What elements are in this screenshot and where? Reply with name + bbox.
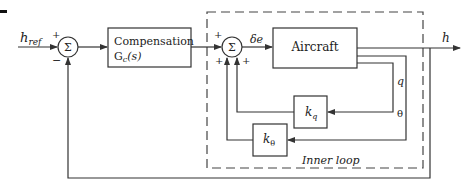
ktheta-to-sum2-line xyxy=(227,58,253,140)
inner-loop-label: Inner loop xyxy=(301,154,360,167)
svg-text:Compensation: Compensation xyxy=(114,35,194,48)
ktheta-block: kθ xyxy=(253,124,287,156)
svg-text:+: + xyxy=(214,29,222,40)
svg-text:+: + xyxy=(52,29,60,40)
compensation-block: Compensation Gc(s) xyxy=(108,28,194,67)
delta-e-label: δe xyxy=(250,33,264,46)
q-feedback-line xyxy=(328,63,393,112)
svg-text:Aircraft: Aircraft xyxy=(290,40,338,54)
svg-text:Gc(s): Gc(s) xyxy=(114,50,142,64)
svg-text:−: − xyxy=(52,54,61,67)
theta-label: θ xyxy=(397,108,403,119)
aircraft-block: Aircraft xyxy=(273,28,357,68)
block-diagram: href Σ + − Compensation Gc(s) Σ + + + δe… xyxy=(0,0,476,188)
h-output-label: h xyxy=(442,31,450,45)
kq-block: kq xyxy=(294,96,327,128)
summing-junction-1: Σ + − xyxy=(52,29,78,67)
svg-text:Σ: Σ xyxy=(228,41,236,54)
corner-mark xyxy=(0,10,7,13)
svg-text:+: + xyxy=(215,55,223,66)
svg-text:+: + xyxy=(242,55,250,66)
svg-text:Σ: Σ xyxy=(64,41,72,54)
q-label: q xyxy=(397,75,404,88)
href-label: href xyxy=(20,30,43,47)
diagram-svg: href Σ + − Compensation Gc(s) Σ + + + δe… xyxy=(0,0,476,188)
